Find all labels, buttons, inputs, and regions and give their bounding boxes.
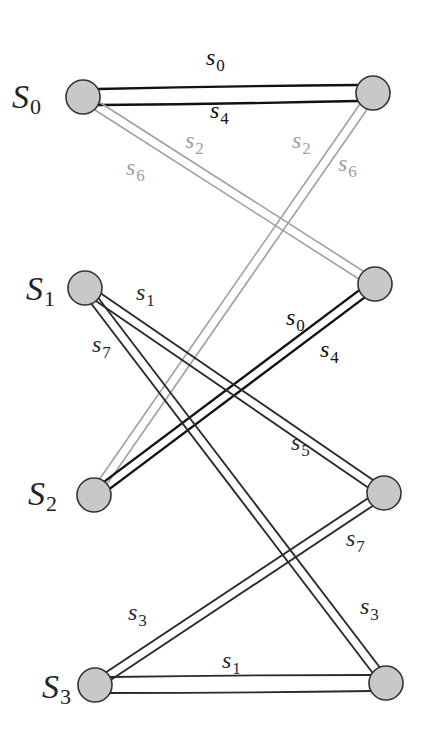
state-label-s0: S0 [12, 78, 41, 119]
edge-label-s4: s4 [320, 336, 339, 367]
node-l3 [78, 668, 112, 702]
edge-L3-R2-a [93, 489, 382, 681]
edge-label-s2: s2 [185, 127, 204, 158]
edge-L0-R1-b [81, 101, 373, 288]
edge-L0-R1-a [85, 93, 377, 280]
edge-label-s0: s0 [206, 44, 225, 75]
edge-label-s6: s6 [338, 150, 357, 181]
node-r3 [369, 666, 403, 700]
state-labels-layer: S0S1S2S3 [12, 78, 71, 709]
edge-label-s7: s7 [346, 525, 365, 556]
state-label-s3: S3 [42, 668, 71, 709]
edge-label-s6: s6 [126, 154, 145, 185]
edge-label-s0: s0 [286, 304, 305, 335]
edge-label-s7: s7 [92, 331, 111, 362]
edge-label-s4: s4 [210, 97, 229, 128]
edge-L0-R0-b [98, 101, 358, 105]
edge-label-s3: s3 [128, 599, 147, 630]
node-r0 [356, 76, 390, 110]
edge-L0-R0-a [98, 85, 358, 89]
node-l1 [68, 271, 102, 305]
edge-label-s3: s3 [360, 593, 379, 624]
edge-L1-R2-b [82, 292, 381, 497]
edge-L2-R1-a [91, 280, 372, 491]
edge-L3-R3-b [110, 691, 371, 693]
edge-label-s1: s1 [222, 647, 241, 678]
edge-label-s1: s1 [136, 279, 155, 310]
state-label-s2: S2 [28, 475, 57, 516]
node-l2 [77, 478, 111, 512]
edge-label-s2: s2 [292, 127, 311, 158]
state-label-s1: S1 [26, 270, 55, 311]
node-r2 [367, 476, 401, 510]
edge-L2-R0-a [90, 90, 369, 492]
state-transition-diagram: s0s4s2s6s2s6s1s7s0s4s5s7s3s3s1 S0S1S2S3 [0, 0, 422, 743]
edge-L3-R2-b [97, 497, 386, 689]
node-l0 [66, 80, 100, 114]
node-r1 [358, 267, 392, 301]
